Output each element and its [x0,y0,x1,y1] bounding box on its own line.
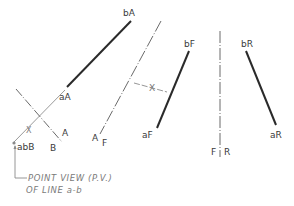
fold-label-f-view-a: F [102,138,107,148]
annotation-line-1: POINT VIEW (P.V.) [28,173,112,183]
x-mark-view-f: X [149,83,156,93]
label-bR: bR [241,39,253,49]
label-aF: aF [142,130,153,140]
fold-label-r: R [224,147,230,157]
label-abB: abB [17,142,34,152]
label-bF: bF [184,39,195,49]
fold-line-b-a [16,89,62,142]
point-view-marker [12,141,15,144]
auxiliary-view-diagram: bA aA X B A abB POINT VIEW (P.V.) OF LIN… [0,0,294,206]
line-ab-view-r [246,51,276,125]
label-bA: bA [123,8,136,18]
x-mark-view-b: X [26,126,32,135]
fold-label-a: A [92,133,99,143]
label-aR: aR [270,130,282,140]
annotation-line-2: OF LINE a-b [26,185,82,195]
fold-line-a-f [100,21,161,134]
fold-label-f: F [211,147,216,157]
line-ab-view-a [67,21,131,87]
line-ab-view-f [157,51,189,128]
fold-label-b: B [50,143,56,153]
fold-label-a-view-b: A [62,128,69,138]
